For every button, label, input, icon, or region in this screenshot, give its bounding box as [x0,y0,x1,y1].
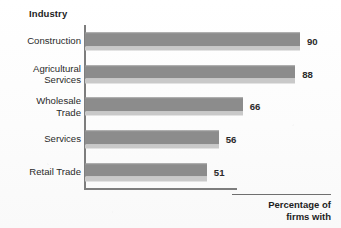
bar-row: Agricultural Services 88 [0,58,341,91]
bar-row: Retail Trade 51 [0,155,341,188]
chart-title: Industry [29,8,67,19]
category-label: Retail Trade [0,166,81,177]
value-label: 51 [214,166,225,177]
plot-area: Construction 90 Agricultural Services 88… [0,25,341,188]
category-label: Wholesale Trade [0,95,81,118]
bar-row: Services 56 [0,123,341,156]
bar-body [85,65,295,79]
category-label: Construction [0,36,81,47]
x-axis-caption: Percentage of firms with [211,199,331,222]
value-label: 90 [307,36,318,47]
bar-retail-trade [85,163,207,180]
bar-shadow [85,144,219,149]
bar-construction [85,33,300,50]
bar-row: Construction 90 [0,25,341,58]
x-axis-caption-rule [232,194,331,195]
value-label: 88 [302,68,313,79]
bar-body [85,131,219,145]
bar-body [85,98,243,112]
bar-body [85,33,300,47]
bar-shadow [85,111,243,116]
bar-services [85,131,219,148]
value-label: 56 [226,134,237,145]
bar-shadow [85,46,300,51]
category-label: Agricultural Services [0,62,81,85]
bar-body [85,163,207,177]
bar-agricultural-services [85,65,295,82]
x-axis-line [84,188,237,190]
category-label: Services [0,133,81,144]
bar-wholesale-trade [85,98,243,115]
bar-chart: Industry Construction 90 Agricultural Se… [0,0,341,228]
bar-row: Wholesale Trade 66 [0,90,341,123]
value-label: 66 [250,101,261,112]
bar-shadow [85,177,207,182]
bar-shadow [85,79,295,84]
